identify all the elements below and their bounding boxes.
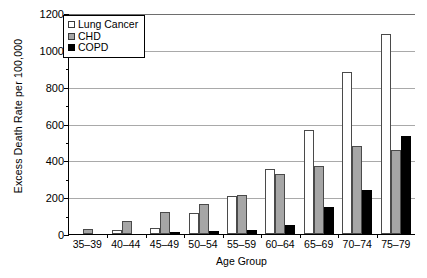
bar — [381, 34, 391, 234]
y-axis-tick — [64, 235, 69, 236]
legend: Lung Cancer CHD COPD — [63, 15, 145, 58]
x-axis-tick-label: 75–79 — [377, 238, 416, 250]
bar — [314, 166, 324, 234]
x-axis-tick-label: 50–54 — [184, 238, 223, 250]
y-axis-tick-label: 200 — [46, 193, 64, 204]
bar — [160, 212, 170, 234]
bar-group — [223, 14, 261, 234]
x-axis-title: Age Group — [68, 255, 415, 267]
bar-group — [377, 14, 415, 234]
bar — [304, 130, 314, 234]
bar — [265, 169, 275, 234]
legend-item-lung-cancer: Lung Cancer — [68, 19, 138, 31]
bar — [401, 136, 411, 234]
bar-group — [184, 14, 222, 234]
bar — [189, 213, 199, 234]
x-axis-tick-labels: 35–3940–4445–4950–5455–5960–6465–6970–74… — [68, 238, 415, 250]
legend-item-copd: COPD — [68, 42, 138, 54]
bar — [227, 196, 237, 234]
excess-death-rate-bar-chart: Excess Death Rate per 100,000 0200400600… — [0, 0, 427, 278]
legend-item-label: COPD — [78, 42, 108, 54]
bar-group — [338, 14, 376, 234]
x-axis-tick-label: 45–49 — [145, 238, 184, 250]
bar — [150, 228, 160, 234]
legend-swatch-icon — [68, 44, 75, 51]
bar-group — [300, 14, 338, 234]
y-axis-tick-label: 400 — [46, 156, 64, 167]
legend-swatch-icon — [68, 21, 75, 28]
bar — [247, 230, 257, 234]
bar — [170, 232, 180, 234]
y-axis-tick-labels: 020040060080010001200 — [28, 14, 64, 235]
x-axis-tick-label: 60–64 — [261, 238, 300, 250]
bar — [199, 204, 209, 234]
x-axis-tick-label: 55–59 — [222, 238, 261, 250]
y-axis-tick-label: 1000 — [40, 45, 64, 56]
bar — [83, 229, 93, 234]
bar — [342, 72, 352, 234]
bar — [237, 195, 247, 234]
y-axis-tick-label: 600 — [46, 119, 64, 130]
bar — [352, 146, 362, 234]
y-axis-tick-label: 800 — [46, 82, 64, 93]
bar — [209, 231, 219, 234]
bar — [122, 221, 132, 234]
bar — [362, 190, 372, 234]
bar — [112, 230, 122, 234]
bar — [324, 207, 334, 234]
x-axis-tick-label: 40–44 — [107, 238, 146, 250]
bar — [391, 150, 401, 234]
y-axis-tick-label: 1200 — [40, 9, 64, 20]
bar-group — [146, 14, 184, 234]
bar — [285, 225, 295, 234]
bar — [275, 174, 285, 234]
x-axis-tick-label: 35–39 — [68, 238, 107, 250]
bar-group — [261, 14, 299, 234]
y-axis-title: Excess Death Rate per 100,000 — [12, 6, 24, 226]
x-axis-tick-label: 65–69 — [299, 238, 338, 250]
x-axis-tick-label: 70–74 — [338, 238, 377, 250]
legend-item-label: Lung Cancer — [78, 19, 138, 31]
legend-swatch-icon — [68, 33, 75, 40]
